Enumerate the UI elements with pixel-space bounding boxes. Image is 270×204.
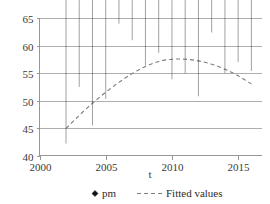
x-axis-tick-label: 2010	[162, 161, 185, 173]
legend-label-fitted-values: Fitted values	[166, 187, 223, 199]
y-axis-tick-label: 45	[23, 123, 35, 135]
y-axis-tick-label: 60	[23, 41, 35, 53]
y-axis-tick-label: 55	[23, 68, 35, 80]
y-axis-tick-label: 65	[23, 13, 35, 25]
x-axis-tick-label: 2000	[30, 161, 53, 173]
chart-figure: 404550556065 2000200520102015 t pm Fitte…	[0, 0, 270, 204]
x-axis-title: t	[148, 168, 151, 180]
legend-label-pm: pm	[102, 187, 117, 199]
y-axis-tick-label: 50	[23, 96, 35, 108]
chart-background	[0, 0, 270, 204]
scatter-chart: 404550556065 2000200520102015 t pm Fitte…	[0, 0, 270, 204]
x-axis-tick-label: 2005	[96, 161, 119, 173]
x-axis-tick-label: 2015	[228, 161, 251, 173]
